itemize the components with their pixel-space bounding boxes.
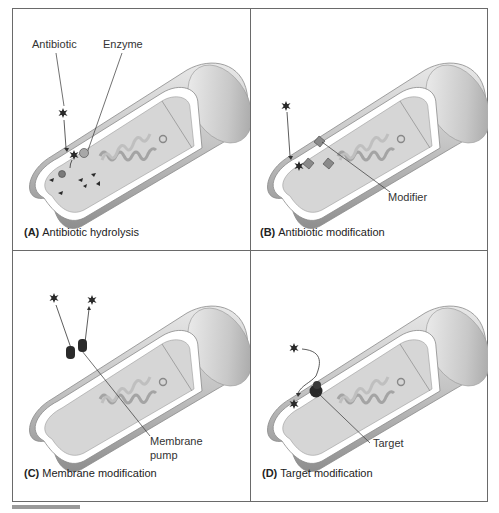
panel-letter: (B): [260, 226, 275, 238]
caption-text: Antibiotic modification: [278, 226, 384, 238]
caption-text: Target modification: [280, 467, 372, 479]
panel-caption: (B)Antibiotic modification: [260, 226, 385, 238]
figure-number-bar: [12, 505, 80, 509]
bacterial-cell-illustration: [250, 8, 488, 248]
caption-text: Antibiotic hydrolysis: [42, 226, 139, 238]
bacterial-cell-illustration: [250, 251, 488, 491]
panel-c-membrane-modification: Membrane pump (C)Membrane modification: [12, 251, 250, 491]
panel-letter: (C): [24, 467, 39, 479]
label-membrane-pump-line1: Membrane: [150, 435, 203, 447]
panel-letter: (D): [262, 467, 277, 479]
label-modifier: Modifier: [388, 191, 427, 203]
panel-d-target-modification: Target (D)Target modification: [250, 251, 488, 491]
panel-b-antibiotic-modification: Modifier (B)Antibiotic modification: [250, 8, 488, 248]
label-antibiotic: Antibiotic: [32, 38, 77, 50]
panel-letter: (A): [24, 226, 39, 238]
label-membrane-pump-line2: pump: [150, 449, 178, 461]
panel-caption: (C)Membrane modification: [24, 467, 157, 479]
panel-caption: (D)Target modification: [262, 467, 373, 479]
panel-a-antibiotic-hydrolysis: Antibiotic Enzyme (A)Antibiotic hydrolys…: [12, 8, 250, 248]
caption-text: Membrane modification: [42, 467, 156, 479]
bacterial-cell-illustration: [12, 251, 250, 491]
label-target: Target: [373, 437, 404, 449]
label-enzyme: Enzyme: [103, 38, 143, 50]
panel-caption: (A)Antibiotic hydrolysis: [24, 226, 139, 238]
